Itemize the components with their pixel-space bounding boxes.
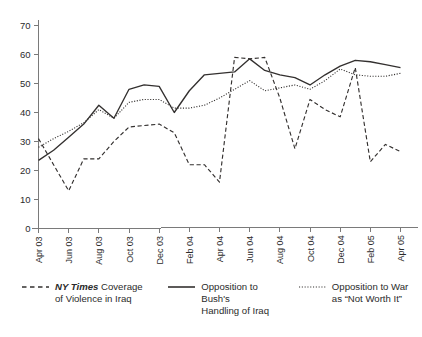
y-tick-label: 20: [20, 165, 31, 176]
x-tick-label: Dec 03: [155, 236, 165, 265]
legend-swatch-solid-icon: [168, 284, 196, 296]
x-axis-line: [33, 227, 419, 229]
y-tick-label: 60: [20, 49, 31, 60]
legend-label-2: Opposition to Waras “Not Worth It”: [332, 281, 408, 305]
x-tick-label: Jun 03: [64, 236, 74, 263]
x-tick-label: Oct 03: [125, 236, 135, 263]
legend-entry-1: Opposition to Bush'sHandling of Iraq: [168, 281, 287, 318]
chart-legend: NY Times Coverageof Violence in IraqOppo…: [0, 281, 422, 337]
plot-area: 010203040506070Apr 03Jun 03Aug 03Oct 03D…: [0, 0, 422, 275]
legend-swatch-dotted-icon: [299, 284, 327, 296]
y-tick-label: 10: [20, 194, 31, 205]
y-tick-label: 40: [20, 107, 31, 118]
y-tick-label: 0: [25, 223, 30, 234]
x-tick-label: Apr 05: [396, 235, 406, 262]
y-tick-label: 30: [20, 136, 31, 147]
x-tick-label: Feb 05: [366, 235, 376, 263]
x-tick-label: Dec 04: [336, 235, 346, 264]
legend-label-0: NY Times Coverageof Violence in Iraq: [55, 281, 143, 305]
legend-swatch-dashed-icon: [22, 284, 50, 296]
series-line-0: [39, 57, 401, 190]
legend-label-1: Opposition to Bush'sHandling of Iraq: [201, 281, 287, 318]
chart-figure: 010203040506070Apr 03Jun 03Aug 03Oct 03D…: [0, 0, 422, 337]
x-tick-label: Jun 04: [245, 236, 255, 263]
series-line-2: [39, 69, 401, 147]
x-tick-label: Apr 04: [215, 236, 225, 263]
legend-entry-2: Opposition to Waras “Not Worth It”: [299, 281, 410, 305]
y-tick-label: 50: [20, 78, 31, 89]
x-tick-label: Aug 04: [275, 236, 285, 265]
series-line-1: [39, 59, 401, 161]
y-tick-label: 70: [20, 20, 31, 31]
legend-entry-0: NY Times Coverageof Violence in Iraq: [22, 281, 156, 305]
x-tick-label: Aug 03: [94, 236, 104, 265]
x-tick-label: Feb 04: [185, 236, 195, 264]
x-tick-label: Oct 04: [306, 235, 316, 262]
legend-label-emphasis: NY Times: [55, 281, 98, 292]
line-chart-svg: 010203040506070Apr 03Jun 03Aug 03Oct 03D…: [0, 0, 422, 275]
x-tick-label: Apr 03: [34, 237, 44, 264]
